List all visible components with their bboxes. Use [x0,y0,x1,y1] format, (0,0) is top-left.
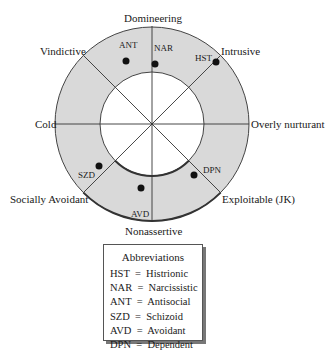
point-label-nar: NAR [154,43,173,53]
point-label-avd: AVD [131,209,149,219]
legend-row: DPN = Dependent [104,338,202,352]
legend-row: ANT = Antisocial [104,295,202,309]
label-exploitable: Exploitable (JK) [222,193,295,205]
point-label-hst: HST [195,53,212,63]
label-cold: Cold [35,118,56,130]
label-intrusive: Intrusive [221,45,260,57]
point-avd [138,185,145,192]
label-vindictive: Vindictive [40,45,86,57]
point-label-szd: SZD [78,170,95,180]
label-nonassertive: Nonassertive [125,225,182,237]
point-label-dpn: DPN [203,165,221,175]
legend-row: HST = Histrionic [104,267,202,281]
abbreviations-legend: Abbreviations HST = Histrionic NAR = Nar… [103,244,203,341]
label-overly-nurturant: Overly nurturant [251,118,325,130]
point-label-ant: ANT [119,40,138,50]
legend-row: SZD = Schizoid [104,310,202,324]
point-szd [96,163,103,170]
legend-title: Abbreviations [104,251,202,263]
point-hst [213,59,220,66]
point-ant [123,58,130,65]
label-domineering: Domineering [124,12,182,24]
label-socially-avoidant: Socially Avoidant [10,193,88,205]
point-dpn [191,172,198,179]
point-nar [152,61,159,68]
legend-row: NAR = Narcissistic [104,281,202,295]
legend-row: AVD = Avoidant [104,324,202,338]
